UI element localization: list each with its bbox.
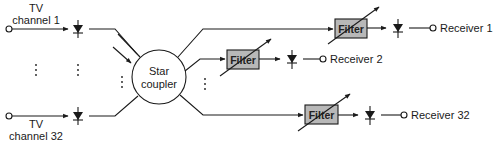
output-branch-2: Filter Receiver 2 [185, 39, 383, 76]
source-32-label-line2: channel 32 [9, 130, 63, 142]
receiver-32-label: Receiver 32 [411, 109, 470, 121]
source-1-label-line1: TV [29, 2, 44, 14]
laser-diode-icon [73, 20, 83, 38]
photodiode-icon [393, 19, 403, 38]
filter-1-label: Filter [338, 23, 364, 35]
receiver-1-label: Receiver 1 [440, 22, 493, 34]
photodiode-icon [365, 106, 375, 125]
ellipsis-dots-icon [204, 78, 206, 90]
source-channel-1: TV channel 1 [6, 2, 137, 54]
output-port-icon [430, 25, 436, 31]
source-channel-32: TV channel 32 [6, 96, 138, 142]
star-coupler-diagram: TV channel 1 TV channel 32 Star [0, 0, 493, 143]
receiver-2-label: Receiver 2 [330, 53, 383, 65]
photodiode-icon [287, 50, 297, 69]
input-port-icon [6, 26, 12, 32]
output-branch-1: Filter Receiver 1 [178, 7, 493, 57]
source-32-label-line1: TV [29, 118, 44, 130]
ellipsis-dots-icon [35, 64, 123, 88]
source-1-label-line2: channel 1 [12, 14, 60, 26]
input-port-icon [6, 113, 12, 119]
coupler-label-line1: Star [149, 65, 170, 77]
input-arrow [113, 47, 131, 63]
output-branch-32: Filter Receiver 32 [180, 94, 470, 131]
laser-diode-icon [73, 107, 83, 125]
output-port-icon [401, 112, 407, 118]
output-port-icon [320, 56, 326, 62]
star-coupler: Star coupler [132, 50, 186, 104]
coupler-label-line2: coupler [141, 78, 177, 90]
